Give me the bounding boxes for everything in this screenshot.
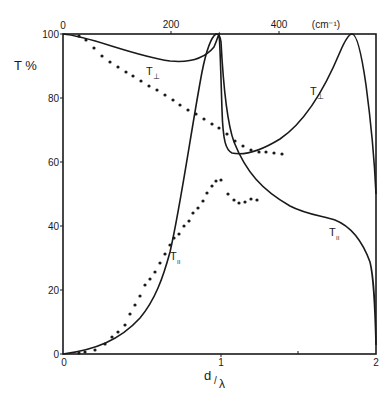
x-axis-title-slash: / bbox=[214, 375, 217, 386]
x-axis-title-lambda: λ bbox=[219, 377, 225, 391]
x-tick-0: 0 bbox=[61, 357, 67, 368]
y-tick-0: 0 bbox=[53, 349, 59, 360]
top-tick-400: 400 bbox=[271, 19, 288, 30]
svg-text:T: T bbox=[170, 250, 177, 262]
top-tick-labels: 0 200 400 (cm⁻¹) bbox=[60, 19, 340, 31]
y-tick-100: 100 bbox=[42, 29, 59, 40]
svg-text:T: T bbox=[329, 226, 336, 238]
label-t-par-theory: T II bbox=[329, 226, 340, 241]
y-tick-40: 40 bbox=[48, 221, 60, 232]
t-perp-theory-curve bbox=[63, 34, 376, 194]
top-tick-200: 200 bbox=[163, 19, 180, 30]
y-tick-labels: 100 80 60 40 20 0 bbox=[42, 29, 59, 360]
y-tick-20: 20 bbox=[48, 285, 60, 296]
t-par-measured-points bbox=[77, 178, 258, 354]
svg-text:T: T bbox=[310, 85, 317, 97]
svg-text:T: T bbox=[146, 65, 153, 77]
svg-text:⊥: ⊥ bbox=[317, 92, 324, 101]
top-tick-0: 0 bbox=[60, 20, 66, 31]
x-tick-2: 2 bbox=[373, 357, 379, 368]
svg-text:⊥: ⊥ bbox=[153, 72, 160, 81]
t-par-theory-curve bbox=[63, 34, 376, 354]
plot-frame bbox=[63, 34, 376, 354]
label-t-perp-theory: T ⊥ bbox=[310, 85, 324, 101]
x-axis-title: d / λ bbox=[204, 368, 225, 391]
x-axis-title-d: d bbox=[204, 368, 211, 383]
svg-text:II: II bbox=[177, 259, 181, 265]
y-tick-80: 80 bbox=[48, 93, 60, 104]
y-axis-title: T % bbox=[14, 58, 37, 73]
label-t-perp-measured: T ⊥ bbox=[146, 65, 160, 81]
y-tick-60: 60 bbox=[48, 157, 60, 168]
transmission-chart: 100 80 60 40 20 0 0 1 2 0 200 400 (cm⁻¹)… bbox=[0, 0, 392, 399]
x-tick-1: 1 bbox=[218, 357, 224, 368]
x-tick-labels: 0 1 2 bbox=[61, 357, 379, 368]
top-axis-unit: (cm⁻¹) bbox=[312, 19, 340, 30]
svg-text:II: II bbox=[336, 235, 340, 241]
t-perp-measured-points bbox=[77, 34, 283, 155]
label-t-par-measured: T II bbox=[170, 250, 181, 265]
